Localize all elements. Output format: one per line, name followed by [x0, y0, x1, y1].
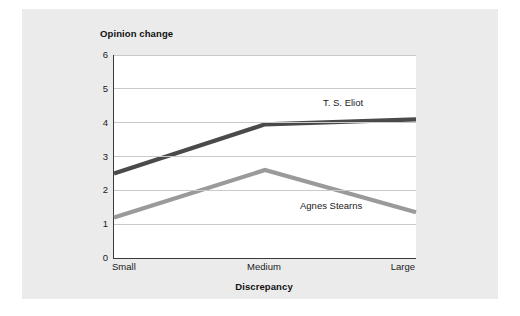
x-axis-tick-label: Small	[112, 262, 136, 272]
gridline	[114, 224, 416, 225]
gridline	[114, 190, 416, 191]
x-axis-tick-label: Medium	[247, 262, 281, 272]
gridline	[114, 55, 416, 56]
gridline	[114, 156, 416, 157]
y-axis-tick-label: 5	[92, 84, 108, 94]
chart-title: Opinion change	[100, 28, 173, 39]
plot-area	[113, 55, 416, 259]
x-axis-tick-label: Large	[391, 262, 415, 272]
y-axis-tick-label: 6	[92, 50, 108, 60]
y-axis-tick-label: 1	[92, 219, 108, 229]
y-axis-tick-label: 3	[92, 152, 108, 162]
y-axis-tick-label: 4	[92, 118, 108, 128]
x-axis-tick-labels: SmallMediumLarge	[113, 262, 415, 278]
series-label-eliot: T. S. Eliot	[323, 98, 363, 108]
y-axis-tick-labels: 0123456	[90, 55, 108, 258]
series-label-stearns: Agnes Stearns	[300, 201, 362, 211]
y-axis-tick-label: 0	[92, 253, 108, 263]
series-line-eliot	[114, 119, 416, 173]
series-line-stearns	[114, 170, 416, 217]
y-axis-tick-label: 2	[92, 185, 108, 195]
gridline	[114, 122, 416, 123]
x-axis-title: Discrepancy	[113, 281, 415, 292]
figure-root: Opinion change 0123456 SmallMediumLarge …	[0, 0, 520, 316]
gridline	[114, 88, 416, 89]
